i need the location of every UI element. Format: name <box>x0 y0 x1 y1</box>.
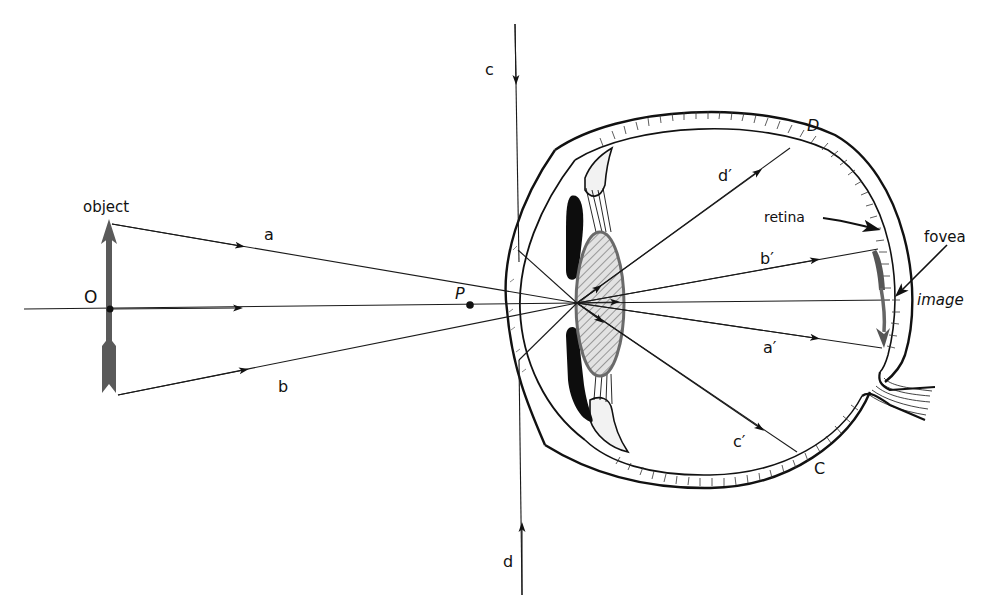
label-C: C <box>814 459 825 478</box>
label-b-prime: b′ <box>760 249 774 268</box>
rays <box>24 24 890 595</box>
label-a: a <box>264 225 274 244</box>
label-object: object <box>83 198 129 216</box>
point-P-dot <box>466 301 474 309</box>
eye-optics-diagram: object O P a b c d D C d′ b′ a′ c′ retin… <box>0 0 989 612</box>
label-c-prime: c′ <box>733 432 746 451</box>
retinal-image-arrow <box>872 250 890 348</box>
point-O-dot <box>107 306 114 313</box>
label-fovea: fovea <box>924 228 966 246</box>
ciliary-body-top <box>585 148 612 232</box>
ciliary-body-bottom <box>590 374 628 452</box>
sclera-hatching <box>600 111 900 486</box>
label-O: O <box>84 287 97 307</box>
label-d-prime: d′ <box>718 166 732 185</box>
label-D: D <box>807 116 819 135</box>
label-a-prime: a′ <box>763 338 777 357</box>
ray-b-arrow <box>118 370 244 395</box>
label-c: c <box>485 60 494 79</box>
label-d: d <box>503 552 513 571</box>
label-b: b <box>278 377 288 396</box>
ray-c-arrow <box>515 24 516 80</box>
label-image: image <box>917 291 964 309</box>
label-P: P <box>455 284 465 303</box>
ray-a-arrow <box>112 224 240 246</box>
optic-nerve <box>862 372 935 420</box>
label-retina: retina <box>764 209 805 225</box>
labels: object O P a b c d D C d′ b′ a′ c′ retin… <box>83 60 966 571</box>
retina-pointer <box>823 218 872 228</box>
object-arrow <box>101 219 117 393</box>
